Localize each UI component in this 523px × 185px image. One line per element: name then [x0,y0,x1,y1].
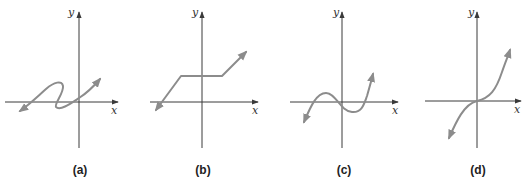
panel-label-c: (c) [337,163,352,177]
graph-panel-d: x y (d) [425,6,521,177]
y-axis-label: y [332,6,340,19]
curve-d [449,50,510,138]
y-axis-label: y [467,6,475,19]
curve-b [156,52,246,110]
panel-label-a: (a) [73,163,88,177]
x-axis-label: x [111,104,118,117]
panel-label-b: (b) [195,163,210,177]
graph-panel-a: x y (a) [5,6,118,177]
graph-panel-c: x y (c) [290,6,399,177]
curve-c [304,74,373,122]
panel-label-d: (d) [470,163,485,177]
curve-a [20,79,100,111]
x-axis-label: x [514,103,521,116]
x-axis-label: x [392,104,399,117]
function-graphs-figure: x y (a) x y (b) x y (c) x y (d) [0,0,523,185]
y-axis-label: y [191,6,199,19]
graph-panel-b: x y (b) [150,6,259,177]
y-axis-label: y [67,6,75,19]
x-axis-label: x [252,104,259,117]
